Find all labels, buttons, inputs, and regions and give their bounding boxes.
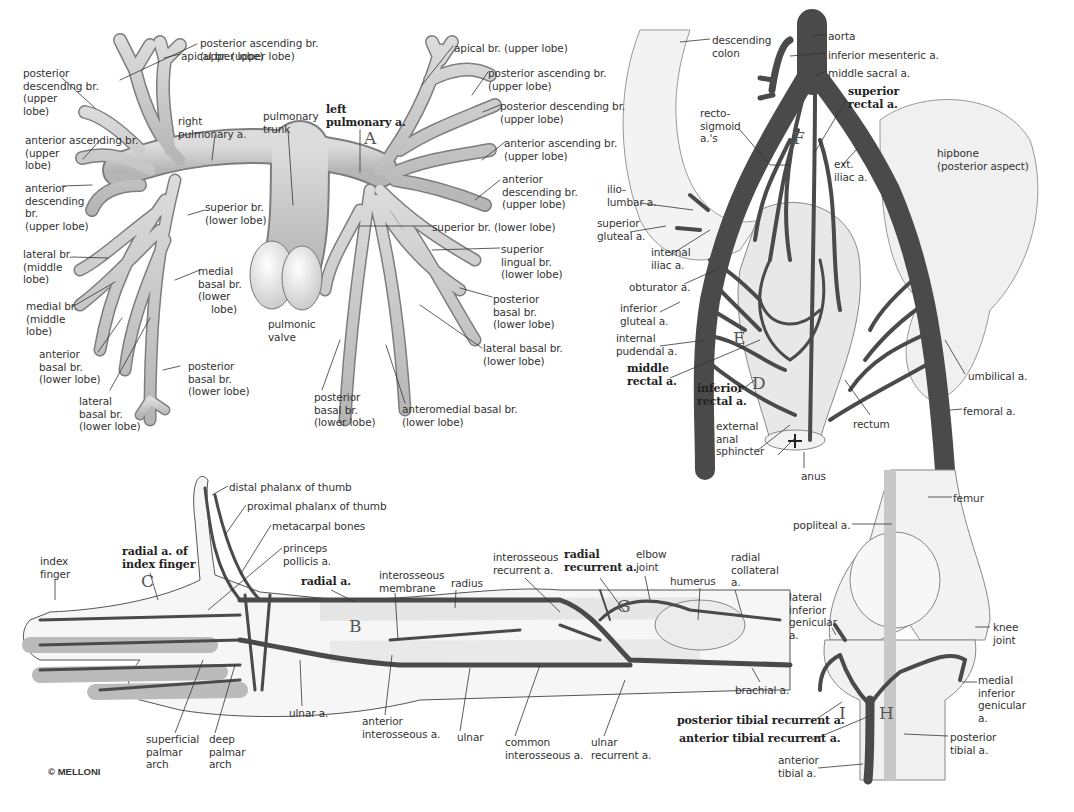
label-medial-basal-br: medial basal br. (lower lobe) xyxy=(198,265,242,315)
label-middle-rectal-a: middle rectal a. xyxy=(627,363,677,388)
anatomy-plate: A posterior ascending br. (upper lobe) a… xyxy=(0,0,1074,812)
label-right-pulmonary-a: right pulmonary a. xyxy=(178,115,246,140)
radius-bone xyxy=(320,608,700,610)
label-interosseous-recurrent-a: interosseous recurrent a. xyxy=(493,551,558,576)
label-index-finger: index finger xyxy=(40,555,70,580)
label-ulnar-recurrent-a: ulnar recurrent a. xyxy=(591,736,651,761)
marker-letter-h: H xyxy=(879,703,894,723)
label-pulmonic-valve: pulmonic valve xyxy=(268,318,315,343)
label-popliteal-a: popliteal a. xyxy=(793,519,850,532)
label-posterior-basal-br-left-lateral: posterior basal br. (lower lobe) xyxy=(493,293,555,331)
label-deep-palmar-arch: deep palmar arch xyxy=(209,733,245,771)
label-ulnar-a: ulnar a. xyxy=(289,707,328,720)
pulmonic-valve-shape xyxy=(250,241,322,310)
label-superior-br-lower-left: superior br. (lower lobe) xyxy=(432,221,555,234)
label-medial-br-middle: medial br. (middle lobe) xyxy=(26,300,77,338)
label-inferior-rectal-a: inferior rectal a. xyxy=(697,383,747,408)
label-obturator-a: obturator a. xyxy=(629,281,690,294)
label-princeps-pollicis-a: princeps pollicis a. xyxy=(283,542,331,567)
hand-forearm-drawing xyxy=(23,476,790,736)
label-rectum: rectum xyxy=(853,418,890,431)
label-umbilical-a: umbilical a. xyxy=(968,370,1027,383)
label-elbow-joint: elbow joint xyxy=(636,548,667,573)
ulna-bone xyxy=(330,650,700,652)
label-apical-br-right: apical br. (upper lobe) xyxy=(181,50,295,63)
label-anterior-ascending-br-right: anterior ascending br. (upper lobe) xyxy=(25,134,138,172)
label-aorta: aorta xyxy=(828,30,855,43)
label-radial-collateral-a: radial collateral a. xyxy=(731,551,779,589)
label-external-anal-sphincter: external anal sphincter xyxy=(716,420,764,458)
label-superficial-palmar-arch: superficial palmar arch xyxy=(146,733,199,771)
label-distal-phalanx-of-thumb: distal phalanx of thumb xyxy=(229,481,352,494)
label-metacarpal-bones: metacarpal bones xyxy=(272,520,365,533)
marker-letter-g: G xyxy=(617,596,631,616)
label-posterior-tibial-a: posterior tibial a. xyxy=(950,731,996,756)
label-anteromedial-basal-br: anteromedial basal br. (lower lobe) xyxy=(402,403,518,428)
label-anterior-tibial-recurrent-a: anterior tibial recurrent a. xyxy=(679,733,841,746)
label-brachial-a: brachial a. xyxy=(735,684,789,697)
label-lateral-inferior-genicular-a: lateral inferior genicular a. xyxy=(789,591,837,641)
label-middle-sacral-a: middle sacral a. xyxy=(828,67,910,80)
label-posterior-tibial-recurrent-a: posterior tibial recurrent a. xyxy=(677,715,845,728)
label-superior-gluteal-a: superior gluteal a. xyxy=(597,217,645,242)
label-common-interosseous-a: common interosseous a. xyxy=(505,736,583,761)
label-ilio-lumbar-a: ilio- lumbar a. xyxy=(607,183,656,208)
label-posterior-descending-br-right: posterior descending br. (upper lobe) xyxy=(23,67,99,117)
marker-letter-d: D xyxy=(752,373,766,393)
label-anterior-descending-br-right: anterior descending br. (upper lobe) xyxy=(25,182,89,232)
label-superior-rectal-a: superior rectal a. xyxy=(848,86,899,111)
label-radial-a: radial a. xyxy=(301,576,351,589)
marker-letter-a: A xyxy=(364,128,376,148)
label-descending-colon: descending colon xyxy=(712,34,771,59)
label-anterior-descending-br-left: anterior descending br. (upper lobe) xyxy=(502,173,578,211)
label-anterior-ascending-br-left: anterior ascending br. (upper lobe) xyxy=(504,137,617,162)
label-femur: femur xyxy=(953,492,984,505)
label-recto-sigmoid-as: recto- sigmoid a.'s xyxy=(700,107,741,145)
label-ulnar: ulnar xyxy=(457,731,483,744)
label-internal-iliac-a: internal iliac a. xyxy=(651,246,691,271)
label-pulmonary-trunk: pulmonary trunk xyxy=(263,110,319,135)
label-inferior-gluteal-a: inferior gluteal a. xyxy=(620,302,668,327)
label-lateral-basal-br-left: lateral basal br. (lower lobe) xyxy=(483,342,563,367)
label-posterior-ascending-br-left: posterior ascending br. (upper lobe) xyxy=(488,67,607,92)
label-hipbone: hipbone (posterior aspect) xyxy=(937,147,1029,172)
marker-letter-f: F xyxy=(793,128,805,148)
label-inferior-mesenteric-a: inferior mesenteric a. xyxy=(828,49,939,62)
label-interosseous-membrane: interosseous membrane xyxy=(379,569,444,594)
label-femoral-a: femoral a. xyxy=(963,405,1016,418)
tibia-shape xyxy=(824,640,976,780)
label-lateral-br-middle: lateral br. (middle lobe) xyxy=(23,248,72,286)
label-medial-inferior-genicular-a: medial inferior genicular a. xyxy=(978,674,1026,724)
label-left-pulmonary-a: left pulmonary a. xyxy=(326,104,406,129)
copyright-notice: © MELLONI xyxy=(48,766,100,777)
label-superior-br-lower-right: superior br. (lower lobe) xyxy=(205,201,267,226)
label-anterior-basal-br: anterior basal br. (lower lobe) xyxy=(39,348,101,386)
label-apical-br-left: apical br. (upper lobe) xyxy=(454,42,568,55)
label-anus: anus xyxy=(801,470,826,483)
label-ext-iliac-a: ext. iliac a. xyxy=(834,158,867,183)
label-radial-recurrent-a: radial recurrent a. xyxy=(564,549,637,574)
label-humerus: humerus xyxy=(670,575,716,588)
label-posterior-basal-br-right: posterior basal br. (lower lobe) xyxy=(188,360,250,398)
label-anterior-interosseous-a: anterior interosseous a. xyxy=(362,715,440,740)
marker-letter-e: E xyxy=(733,328,745,348)
label-lateral-basal-br-right: lateral basal br. (lower lobe) xyxy=(79,395,141,433)
label-anterior-tibial-a: anterior tibial a. xyxy=(778,754,819,779)
marker-letter-b: B xyxy=(349,616,362,636)
label-superior-lingual-br: superior lingual br. (lower lobe) xyxy=(501,243,563,281)
humerus-shape xyxy=(655,600,745,650)
label-knee-joint: knee joint xyxy=(993,621,1018,646)
label-proximal-phalanx-of-thumb: proximal phalanx of thumb xyxy=(247,500,387,513)
label-posterior-basal-br-left: posterior basal br. (lower lobe) xyxy=(314,391,376,429)
label-internal-pudendal-a: internal pudendal a. xyxy=(616,332,677,357)
label-radius: radius xyxy=(451,577,483,590)
marker-letter-c: C xyxy=(141,571,154,591)
label-posterior-descending-br-left: posterior descending br. (upper lobe) xyxy=(500,100,625,125)
label-radial-a-of-index-finger: radial a. of index finger xyxy=(122,546,195,571)
